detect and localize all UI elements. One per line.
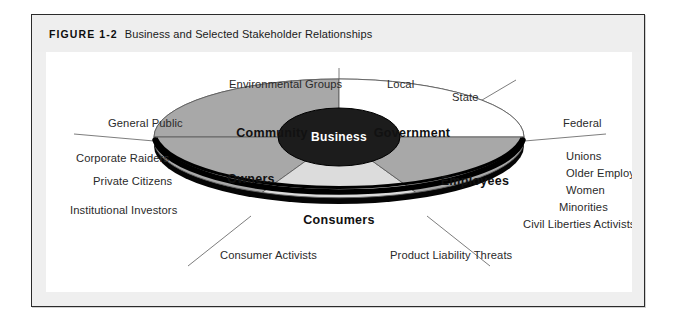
- figure-title: Business and Selected Stakeholder Relati…: [125, 28, 372, 40]
- label-older-employees: Older Employees: [566, 167, 632, 179]
- sector-label-government: Government: [374, 126, 451, 140]
- core-label: Business: [311, 130, 367, 144]
- label-consumer-activists: Consumer Activists: [220, 249, 317, 261]
- label-local: Local: [387, 78, 414, 90]
- figure-number: FIGURE 1-2: [49, 28, 118, 40]
- label-federal: Federal: [563, 117, 602, 129]
- label-private-citizens: Private Citizens: [93, 175, 173, 187]
- label-minorities: Minorities: [559, 201, 608, 213]
- figure-panel: FIGURE 1-2 Business and Selected Stakeho…: [31, 14, 645, 307]
- sector-label-consumers: Consumers: [303, 213, 374, 227]
- label-environmental-groups: Environmental Groups: [229, 78, 343, 90]
- label-women: Women: [566, 184, 605, 196]
- figure-header: FIGURE 1-2 Business and Selected Stakeho…: [32, 15, 644, 52]
- label-product-liability-threats: Product Liability Threats: [390, 249, 513, 261]
- figure-caption: FIGURE 1-2 Business and Selected Stakeho…: [49, 28, 372, 40]
- label-institutional-investors: Institutional Investors: [70, 204, 178, 216]
- sector-label-owners: Owners: [227, 172, 275, 186]
- sector-label-employees: Employees: [441, 174, 510, 188]
- label-state: State: [452, 91, 479, 103]
- figure-root: FIGURE 1-2 Business and Selected Stakeho…: [0, 0, 682, 334]
- label-corporate-raiders: Corporate Raiders: [76, 152, 169, 164]
- label-civil-liberties-activists: Civil Liberties Activists: [523, 218, 632, 230]
- sector-label-community: Community: [236, 126, 307, 140]
- label-unions: Unions: [566, 150, 602, 162]
- label-general-public: General Public: [108, 117, 183, 129]
- figure-canvas: Business Community Government Owners Emp…: [46, 52, 632, 292]
